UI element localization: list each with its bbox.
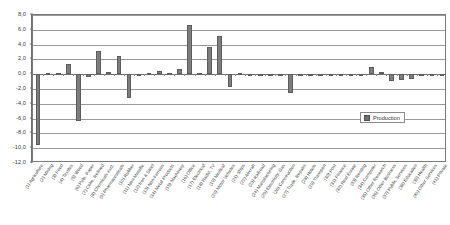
x-axis-tick-mark	[164, 74, 165, 76]
x-axis-tick-mark	[225, 74, 226, 76]
bar	[268, 74, 273, 76]
bar	[167, 73, 172, 75]
bar	[228, 74, 233, 87]
x-axis-tick-mark	[53, 74, 54, 76]
x-axis-tick-mark	[356, 74, 357, 76]
legend-swatch-production	[364, 115, 370, 121]
bar	[318, 74, 323, 76]
bar	[66, 64, 71, 74]
bar-series-production	[33, 15, 445, 161]
x-axis-tick-mark	[235, 74, 236, 76]
x-axis-tick-mark	[104, 74, 105, 76]
bar	[389, 74, 394, 81]
x-axis-tick-mark	[417, 74, 418, 76]
bar	[278, 74, 283, 76]
x-axis-tick-mark	[73, 74, 74, 76]
x-axis-tick-mark	[184, 74, 185, 76]
x-axis-tick-mark	[144, 74, 145, 76]
bar	[298, 74, 303, 76]
bar	[157, 71, 162, 74]
y-axis-tick-label: 2,0	[18, 55, 26, 61]
bar	[248, 74, 253, 76]
bar	[419, 74, 424, 76]
bar	[399, 74, 404, 80]
x-axis-tick-mark	[306, 74, 307, 76]
y-axis-tick-label: -6,0	[16, 115, 26, 121]
bar	[76, 74, 81, 121]
x-axis-tick-mark	[124, 74, 125, 76]
x-axis-tick-mark	[296, 74, 297, 76]
x-axis-tick-mark	[83, 74, 84, 76]
bar	[217, 36, 222, 74]
x-axis: (1) Agriculture(2) Mining(3) Food(4) Tex…	[32, 163, 446, 225]
x-axis-tick-mark	[154, 74, 155, 76]
bar	[258, 74, 263, 76]
y-axis-tick-label: -8,0	[16, 129, 26, 135]
x-axis-tick-mark	[366, 74, 367, 76]
bar	[56, 73, 61, 75]
bar	[187, 25, 192, 74]
bar	[137, 74, 142, 76]
bar	[36, 74, 41, 145]
x-axis-tick-mark	[316, 74, 317, 76]
plot-area	[32, 14, 446, 162]
x-axis-tick-mark	[285, 74, 286, 76]
bar	[440, 74, 445, 76]
y-axis-tick-label: -12,0	[13, 159, 26, 165]
bar	[329, 74, 334, 76]
x-axis-tick-mark	[275, 74, 276, 76]
x-axis-tick-mark	[376, 74, 377, 76]
x-axis-tick-mark	[397, 74, 398, 76]
x-axis-tick-mark	[114, 74, 115, 76]
y-axis-tick-label: -10,0	[13, 144, 26, 150]
bar	[409, 74, 414, 78]
x-axis-tick-mark	[195, 74, 196, 76]
x-axis-tick-mark	[265, 74, 266, 76]
bar	[197, 73, 202, 75]
x-axis-tick-mark	[437, 74, 438, 76]
bar	[359, 74, 364, 76]
bar	[127, 74, 132, 98]
x-axis-tick-mark	[407, 74, 408, 76]
x-axis-tick-mark	[427, 74, 428, 76]
bar	[106, 72, 111, 74]
x-axis-tick-mark	[43, 74, 44, 76]
bar	[369, 67, 374, 74]
x-axis-tick-mark	[326, 74, 327, 76]
y-axis: 8,06,04,02,00,0-2,0-4,0-6,0-8,0-10,0-12,…	[0, 14, 30, 162]
bar	[117, 56, 122, 74]
x-axis-tick-mark	[94, 74, 95, 76]
bar	[86, 74, 91, 77]
x-axis-tick-mark	[346, 74, 347, 76]
legend: Production	[360, 112, 405, 123]
legend-label-production: Production	[373, 115, 400, 121]
bar	[379, 72, 384, 74]
x-axis-tick-mark	[63, 74, 64, 76]
y-axis-tick-label: 4,0	[18, 41, 26, 47]
y-axis-tick-label: 8,0	[18, 11, 26, 17]
x-axis-tick-mark	[205, 74, 206, 76]
x-axis-tick-mark	[134, 74, 135, 76]
bar	[96, 51, 101, 75]
bar	[238, 73, 243, 75]
bar	[288, 74, 293, 93]
x-axis-tick-mark	[386, 74, 387, 76]
bar	[308, 74, 313, 76]
bar	[430, 74, 435, 76]
bar	[177, 69, 182, 74]
bar	[339, 74, 344, 76]
y-axis-tick-label: -4,0	[16, 100, 26, 106]
bar	[46, 73, 51, 75]
bar	[147, 73, 152, 75]
x-axis-tick-mark	[255, 74, 256, 76]
y-axis-tick-label: 6,0	[18, 26, 26, 32]
x-axis-tick-mark	[336, 74, 337, 76]
bar-chart: 8,06,04,02,00,0-2,0-4,0-6,0-8,0-10,0-12,…	[0, 0, 450, 225]
bar	[349, 74, 354, 76]
x-axis-tick-mark	[245, 74, 246, 76]
y-axis-tick-label: 0,0	[18, 70, 26, 76]
x-axis-tick-mark	[174, 74, 175, 76]
bar	[207, 47, 212, 74]
x-axis-tick-mark	[215, 74, 216, 76]
y-axis-tick-label: -2,0	[16, 85, 26, 91]
